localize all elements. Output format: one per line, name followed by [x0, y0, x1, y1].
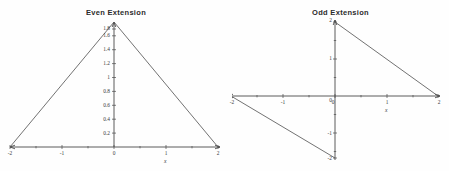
odd-ytick-label-2: 0 [316, 97, 332, 103]
odd-branch-positive-x [335, 22, 438, 96]
even-x-axis [10, 145, 220, 149]
even-extension-plot [0, 0, 232, 171]
even-xtick-label-4: 2 [210, 150, 226, 156]
odd-x-axis [232, 94, 440, 98]
even-ytick-label-0: 0.2 [94, 130, 110, 136]
even-ytick-label-2: 0.6 [94, 102, 110, 108]
even-ytick-label-5: 1.2 [94, 60, 110, 66]
odd-y-axis [333, 20, 337, 160]
odd-extension-plot [232, 0, 449, 171]
odd-xtick-label-0: -2 [224, 99, 240, 105]
odd-ytick-label-1: 1 [316, 55, 332, 61]
odd-xtick-label-1: -1 [275, 99, 291, 105]
even-ytick-label-1: 0.4 [94, 116, 110, 122]
odd-ytick-label-4: -2 [316, 155, 332, 161]
even-xtick-label-1: -1 [54, 150, 70, 156]
even-y-axis [112, 22, 116, 147]
odd-ytick-label-0: 2 [316, 17, 332, 23]
even-ytick-label-8: 1.8 [94, 25, 110, 31]
even-xtick-label-2: 0 [106, 150, 122, 156]
even-ytick-label-3: 0.8 [94, 88, 110, 94]
odd-ytick-label-3: -1 [316, 130, 332, 136]
even-xtick-label-0: -2 [2, 150, 18, 156]
odd-x-axis-name: x [385, 107, 387, 113]
even-xtick-label-3: 1 [158, 150, 174, 156]
chart-even-extension: Even Extension [0, 0, 232, 171]
even-ytick-label-7: 1.6 [94, 32, 110, 38]
even-ytick-label-4: 1 [94, 74, 110, 80]
figure-page: · · · · · Even Extension [0, 0, 449, 171]
odd-xtick-label-4: 2 [431, 99, 447, 105]
chart-odd-extension: Odd Extension [232, 0, 449, 171]
even-x-axis-name: x [164, 158, 166, 164]
odd-branch-negative-x [232, 96, 335, 158]
odd-xtick-label-3: 1 [379, 99, 395, 105]
even-ytick-label-6: 1.4 [94, 46, 110, 52]
